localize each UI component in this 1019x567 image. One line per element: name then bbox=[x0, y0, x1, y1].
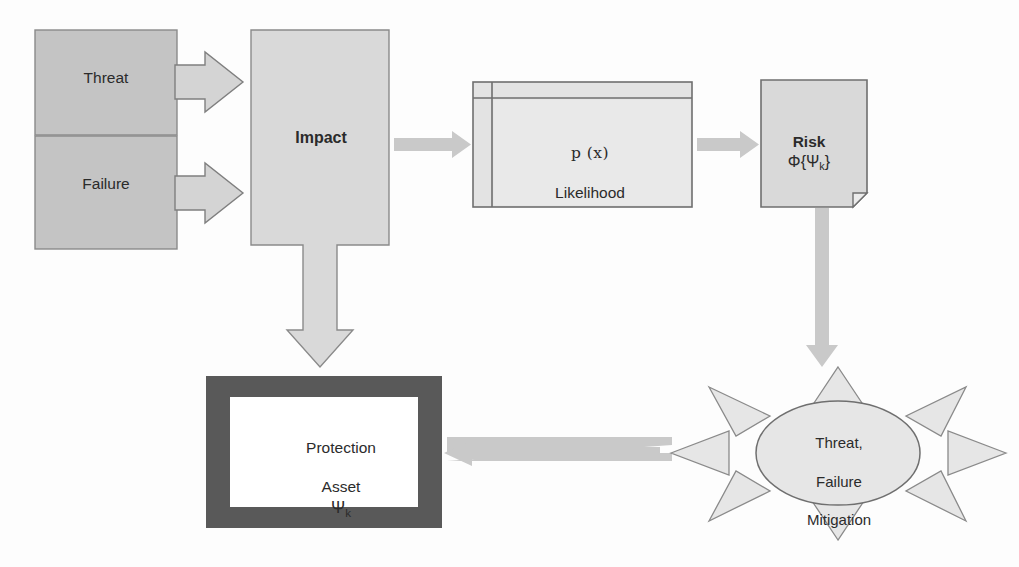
starburst-ray-w bbox=[671, 431, 729, 475]
impact-box[interactable] bbox=[251, 30, 389, 367]
arrow-impact-to-likelihood bbox=[394, 131, 471, 158]
diagram-shapes-layer bbox=[0, 0, 1019, 567]
starburst-ray-nw bbox=[709, 387, 770, 436]
starburst-ray-e bbox=[948, 431, 1006, 475]
failure-box[interactable] bbox=[35, 136, 177, 249]
starburst-center-ellipse bbox=[756, 401, 920, 505]
protection-asset-box[interactable] bbox=[206, 376, 442, 528]
arrow-failure-to-impact bbox=[175, 163, 243, 223]
arrow-likelihood-to-risk bbox=[697, 131, 759, 158]
risk-document[interactable] bbox=[761, 80, 867, 207]
starburst-ray-se bbox=[906, 471, 966, 521]
threat-box[interactable] bbox=[35, 30, 177, 135]
starburst-ray-sw bbox=[709, 471, 770, 521]
arrow-threat-to-impact bbox=[175, 52, 243, 112]
arrow-risk-to-mitigation bbox=[806, 208, 838, 367]
mitigation-starburst[interactable] bbox=[671, 367, 1006, 540]
diagram-canvas: Threat Failure Impact p (x) Likelihood R… bbox=[0, 0, 1019, 567]
starburst-ray-n bbox=[812, 367, 864, 406]
arrow-mitigation-to-asset-shaft bbox=[470, 447, 660, 459]
likelihood-table[interactable] bbox=[473, 82, 692, 207]
starburst-ray-s bbox=[812, 501, 864, 540]
starburst-ray-ne bbox=[906, 387, 966, 436]
